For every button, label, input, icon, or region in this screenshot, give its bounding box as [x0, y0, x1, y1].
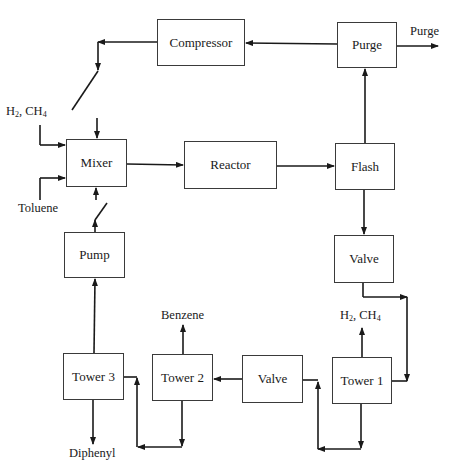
- pump-unit: Pump: [64, 232, 125, 278]
- tower-2-unit: Tower 2: [152, 354, 213, 401]
- tower1-overhead-label: H2, CH4: [340, 308, 381, 323]
- compressor-unit: Compressor: [157, 19, 245, 66]
- tower-2-label: Tower 2: [161, 370, 204, 386]
- benzene-label: Benzene: [161, 308, 204, 323]
- reactor-unit: Reactor: [184, 141, 277, 189]
- pump-label: Pump: [79, 247, 109, 263]
- valve-2-label: Valve: [258, 371, 288, 387]
- diphenyl-label: Diphenyl: [69, 446, 116, 461]
- mixer-label: Mixer: [81, 155, 113, 171]
- reactor-label: Reactor: [210, 157, 250, 173]
- purge-out-label: Purge: [410, 24, 439, 39]
- tower-3-unit: Tower 3: [63, 353, 124, 400]
- tower-1-label: Tower 1: [341, 373, 384, 389]
- stream-mixer-to-reactor: [127, 164, 183, 165]
- flash-unit: Flash: [335, 143, 395, 190]
- toluene-label: Toluene: [18, 201, 58, 216]
- tower-3-label: Tower 3: [72, 369, 115, 385]
- flash-label: Flash: [351, 159, 379, 175]
- purge-label: Purge: [352, 37, 382, 53]
- process-flow-diagram: Compressor Purge Mixer Reactor Flash Val…: [0, 0, 455, 474]
- mixer-unit: Mixer: [66, 139, 127, 187]
- feed-h2-ch4-label: H2, CH4: [6, 104, 47, 119]
- valve-unit-1: Valve: [334, 235, 394, 283]
- pump-switch: [95, 203, 107, 220]
- tower-1-unit: Tower 1: [332, 357, 392, 404]
- recycle-switch: [72, 71, 98, 110]
- stream-purge-to-compressor: [246, 43, 337, 44]
- valve-1-label: Valve: [349, 251, 379, 267]
- purge-unit: Purge: [337, 22, 397, 68]
- compressor-label: Compressor: [170, 35, 233, 51]
- stream-tower3-to-pump: [94, 279, 95, 353]
- valve-unit-2: Valve: [242, 355, 303, 403]
